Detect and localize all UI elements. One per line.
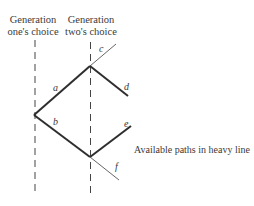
label-c: c	[99, 44, 103, 54]
path-a	[34, 66, 90, 115]
label-a: a	[53, 83, 58, 93]
path-d	[90, 66, 128, 96]
decision-tree-diagram	[0, 0, 254, 206]
path-e	[90, 126, 131, 157]
legend-note: Available paths in heavy line	[134, 144, 250, 155]
label-e: e	[124, 119, 128, 129]
label-d: d	[124, 82, 129, 92]
label-f: f	[115, 162, 118, 172]
label-b: b	[53, 117, 58, 127]
path-b	[34, 115, 90, 157]
